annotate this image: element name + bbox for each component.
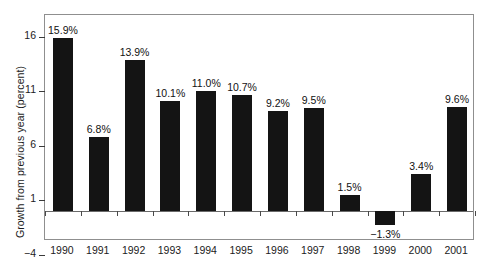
bar [232,95,252,211]
bar-value-label: 10.7% [214,81,270,93]
bar-value-label: 1.5% [322,181,378,193]
bar [89,137,109,211]
x-tick [224,211,225,216]
chart-figure: Growth from previous year (percent) 1611… [0,0,488,271]
bar-value-label: 6.8% [71,123,127,135]
x-tick [117,211,118,216]
plot-area: 161161−4 15.9%6.8%13.9%10.1%11.0%10.7%9.… [44,14,474,240]
y-tick-label: −4 [24,247,36,259]
x-tick [475,211,476,216]
y-tick: 6 [39,146,45,147]
x-tick [439,211,440,216]
y-tick: 1 [39,200,45,201]
x-tick [153,211,154,216]
bar-value-label: 3.4% [393,160,449,172]
bar [125,60,145,211]
bar-value-label: 9.6% [429,93,485,105]
x-tick [296,211,297,216]
bar [447,107,467,211]
x-tick [260,211,261,216]
x-axis-category-label: 2001 [431,244,481,256]
y-tick-label: 1 [30,192,36,204]
zero-baseline [45,211,473,212]
bar-value-label: 15.9% [35,24,91,36]
bar [160,101,180,211]
y-tick: 16 [39,37,45,38]
x-tick [45,211,46,216]
bar [340,195,360,211]
x-tick [332,211,333,216]
y-tick-label: 6 [30,138,36,150]
bar [196,91,216,211]
x-tick [403,211,404,216]
bar-value-label: 9.5% [286,94,342,106]
bar [411,174,431,211]
bar [375,211,395,225]
y-tick-label: 11 [25,83,36,95]
bar [268,111,288,211]
x-tick [81,211,82,216]
x-tick [368,211,369,216]
y-tick: 11 [39,91,45,92]
x-tick [188,211,189,216]
bar [304,108,324,211]
bar-value-label: −1.3% [357,228,413,240]
bar-value-label: 13.9% [107,46,163,58]
